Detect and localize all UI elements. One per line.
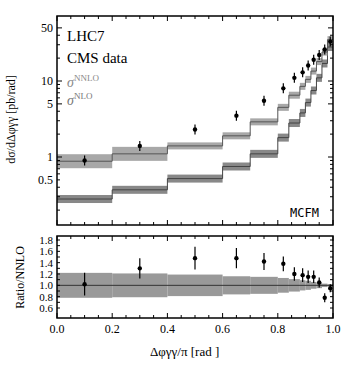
figure: 0.00.20.40.60.81.05010510.51.81.61.41.21… — [0, 0, 355, 368]
data-point — [281, 86, 285, 90]
x-tick-label: 0.8 — [270, 322, 285, 336]
legend-nnlo-symbol: σ — [67, 75, 74, 90]
ratio-point — [292, 272, 296, 276]
x-axis-label: Δφγγ/π [rad ] — [150, 344, 219, 360]
ratio-y-tick-label: 1.6 — [39, 245, 53, 257]
data-point — [82, 158, 86, 162]
data-point — [292, 76, 296, 80]
ratio-point — [138, 266, 142, 270]
data-point — [262, 99, 266, 103]
ratio-point — [323, 296, 327, 300]
ratio-point — [193, 256, 197, 260]
chart-canvas: 0.00.20.40.60.81.05010510.51.81.61.41.21… — [0, 0, 355, 368]
data-point — [306, 63, 310, 67]
y-tick-label: 10 — [41, 74, 53, 88]
data-point — [323, 47, 327, 51]
ratio-point — [234, 256, 238, 260]
y-tick-label: 50 — [41, 21, 53, 35]
data-point — [300, 70, 304, 74]
y-axis-label-top: dσ/dΔφγγ [pb/rad] — [4, 65, 19, 175]
legend-nlo: σNLO — [67, 91, 92, 109]
data-point — [328, 39, 332, 43]
ratio-point — [281, 262, 285, 266]
legend-nlo-sup: NLO — [74, 91, 93, 101]
y-tick-label: 1 — [47, 150, 53, 164]
x-tick-label: 0.6 — [215, 322, 230, 336]
y-tick-label: 5 — [47, 97, 53, 111]
x-tick-label: 0.2 — [105, 322, 120, 336]
ratio-point — [317, 280, 321, 284]
legend-nnlo: σNNLO — [67, 73, 99, 91]
data-point — [193, 127, 197, 131]
x-tick-label: 0.0 — [50, 322, 65, 336]
data-point — [317, 53, 321, 57]
ratio-point — [311, 275, 315, 279]
x-tick-label: 1.0 — [326, 322, 341, 336]
data-point — [311, 58, 315, 62]
ratio-y-tick-label: 1.8 — [39, 234, 53, 246]
legend-nnlo-sup: NNLO — [74, 73, 99, 83]
x-tick-label: 0.4 — [160, 322, 175, 336]
label-mcfm: MCFM — [290, 206, 319, 220]
ratio-point — [300, 273, 304, 277]
ratio-y-tick-label: 1.2 — [39, 268, 53, 280]
label-lhc7: LHC7 — [67, 28, 105, 45]
y-tick-label: 0.5 — [38, 173, 53, 187]
ratio-point — [82, 282, 86, 286]
ratio-point — [328, 286, 332, 290]
label-cms-data: CMS data — [67, 50, 127, 67]
ratio-y-tick-label: 0.8 — [39, 291, 53, 303]
data-point — [234, 113, 238, 117]
y-axis-label-bottom: Ratio/NNLO — [13, 238, 28, 318]
ratio-point — [262, 259, 266, 263]
data-point — [138, 144, 142, 148]
ratio-y-tick-label: 1.0 — [39, 279, 53, 291]
ratio-y-tick-label: 0.6 — [39, 302, 53, 314]
ratio-point — [306, 275, 310, 279]
legend-nlo-symbol: σ — [67, 93, 74, 108]
ratio-y-tick-label: 1.4 — [39, 257, 53, 269]
